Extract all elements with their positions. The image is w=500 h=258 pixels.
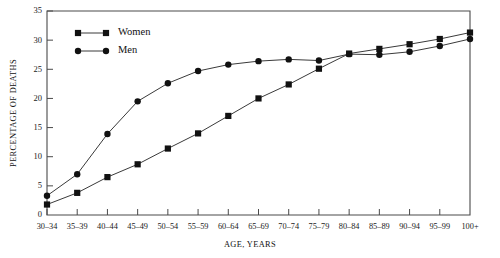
line-chart-plot: 05101520253035 30–3435–3940–4445–4950–54… xyxy=(0,0,500,258)
data-point-men xyxy=(74,171,80,177)
data-point-men xyxy=(316,57,322,63)
data-point-women xyxy=(255,95,261,101)
legend-label-women: Women xyxy=(118,26,151,37)
x-tick-label: 60–64 xyxy=(218,222,240,231)
data-point-women xyxy=(104,174,110,180)
y-tick-label: 20 xyxy=(34,93,43,103)
chart-legend: WomenMen xyxy=(75,26,151,55)
data-point-men xyxy=(376,52,382,58)
data-point-men xyxy=(104,131,110,137)
legend-marker-men xyxy=(103,48,109,54)
data-point-men xyxy=(134,98,140,104)
x-tick-label: 50–54 xyxy=(157,222,179,231)
x-tick-label: 80–84 xyxy=(339,222,361,231)
data-point-women xyxy=(406,41,412,47)
data-point-women xyxy=(467,29,473,35)
y-tick-label: 5 xyxy=(38,180,42,190)
x-tick-label: 90–94 xyxy=(399,222,421,231)
data-point-men xyxy=(286,56,292,62)
y-axis-ticks: 05101520253035 xyxy=(34,5,54,219)
data-point-men xyxy=(437,43,443,49)
data-point-women xyxy=(195,130,201,136)
x-tick-label: 65–69 xyxy=(248,222,269,231)
y-axis-title: PERCENTAGE OF DEATHS xyxy=(9,59,18,167)
x-tick-label: 75–79 xyxy=(309,222,330,231)
x-tick-label: 85–89 xyxy=(369,222,390,231)
data-point-women xyxy=(74,190,80,196)
legend-marker-women xyxy=(75,30,81,36)
x-tick-label: 55–59 xyxy=(188,222,209,231)
x-tick-label: 30–34 xyxy=(37,222,59,231)
x-tick-label: 100+ xyxy=(461,222,478,231)
data-point-men xyxy=(195,68,201,74)
chart-figure: 05101520253035 30–3435–3940–4445–4950–54… xyxy=(0,0,500,258)
data-point-women xyxy=(316,66,322,72)
y-tick-label: 35 xyxy=(34,5,43,15)
x-tick-label: 70–74 xyxy=(278,222,300,231)
data-point-men xyxy=(255,58,261,64)
legend-marker-men xyxy=(75,48,81,54)
data-point-women xyxy=(165,145,171,151)
data-point-women xyxy=(286,81,292,87)
legend-label-men: Men xyxy=(118,44,138,55)
data-point-women xyxy=(135,161,141,167)
y-tick-label: 10 xyxy=(34,151,43,161)
x-axis-title: AGE, YEARS xyxy=(224,240,276,249)
data-point-women xyxy=(44,201,50,207)
data-point-men xyxy=(165,80,171,86)
y-tick-label: 0 xyxy=(38,209,42,219)
data-point-men xyxy=(225,61,231,67)
data-point-men xyxy=(44,193,50,199)
x-axis-ticks: 30–3435–3940–4445–4950–5455–5960–6465–69… xyxy=(37,209,479,231)
data-point-women xyxy=(437,36,443,42)
data-point-women xyxy=(376,46,382,52)
x-tick-label: 95–99 xyxy=(429,222,450,231)
x-tick-label: 40–44 xyxy=(97,222,119,231)
data-point-men xyxy=(467,36,473,42)
data-point-men xyxy=(406,49,412,55)
y-tick-label: 30 xyxy=(34,35,43,45)
data-point-men xyxy=(346,51,352,57)
legend-marker-women xyxy=(103,30,109,36)
y-tick-label: 25 xyxy=(34,64,43,74)
y-tick-label: 15 xyxy=(34,122,43,132)
x-tick-label: 35–39 xyxy=(67,222,88,231)
x-tick-label: 45–49 xyxy=(127,222,148,231)
data-point-women xyxy=(225,113,231,119)
data-series-group xyxy=(44,29,473,207)
